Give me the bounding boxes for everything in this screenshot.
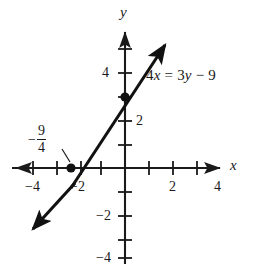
equation-var-y: y xyxy=(185,67,192,83)
y-tick-label-neg4: −4 xyxy=(96,251,111,265)
y-tick-label-neg2: −2 xyxy=(96,209,111,223)
callout-numerator: 9 xyxy=(37,124,46,138)
equation-var-x: x xyxy=(154,67,161,83)
x-axis xyxy=(12,161,220,175)
x-tick-label-2: 2 xyxy=(169,180,176,194)
callout-fraction: 9 4 xyxy=(37,124,46,155)
equation-constant: 9 xyxy=(208,67,216,83)
graph-figure: y x 4 2 −2 −4 −4 −2 2 4 4x = 3y − 9 − 9 … xyxy=(0,0,254,271)
y-tick-label-4: 4 xyxy=(102,66,109,80)
callout-leader-line xyxy=(62,149,70,162)
x-tick-label-4: 4 xyxy=(214,180,221,194)
point-x-intercept xyxy=(66,163,75,172)
equation-label: 4x = 3y − 9 xyxy=(146,68,216,83)
y-axis xyxy=(118,32,132,264)
y-tick-label-2: 2 xyxy=(136,114,143,128)
point-y-intercept xyxy=(120,92,129,101)
callout-minus-sign: − xyxy=(28,133,36,147)
callout-denominator: 4 xyxy=(37,141,46,155)
x-axis-label: x xyxy=(230,158,237,173)
plotted-points xyxy=(66,92,129,172)
x-tick-label-neg2: −2 xyxy=(70,180,85,194)
equation-coef-x: 4 xyxy=(146,67,154,83)
equation-equals: = xyxy=(165,67,174,83)
x-tick-label-neg4: −4 xyxy=(25,180,40,194)
y-axis-label: y xyxy=(120,5,127,20)
x-intercept-callout: − 9 4 xyxy=(28,124,46,155)
equation-coef-y: 3 xyxy=(177,67,185,83)
